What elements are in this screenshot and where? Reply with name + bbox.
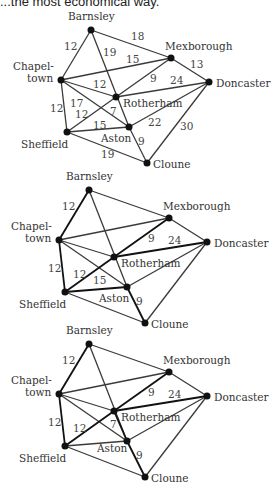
label-chapeltown-2: town xyxy=(25,386,52,398)
weight-label: 12 xyxy=(62,354,75,366)
weight-label: 9 xyxy=(136,295,143,307)
weight-label: 7 xyxy=(110,105,117,117)
weight-label: 9 xyxy=(148,232,155,244)
node-chapeltown xyxy=(56,391,63,398)
weight-label: 12 xyxy=(93,78,106,90)
label-aston: Aston xyxy=(98,292,130,304)
label-cloune: Cloune xyxy=(151,318,188,330)
weight-label: 15 xyxy=(126,53,139,65)
weight-label: 13 xyxy=(190,58,203,70)
weight-label: 24 xyxy=(170,74,184,86)
weight-label: 9 xyxy=(148,386,155,398)
edge-barnsley-aston xyxy=(89,190,127,287)
graph-spanning-tree-step-2: 12 9 24 12 12 7 9 Barnsley Mexborough Ch… xyxy=(11,324,269,484)
label-rotherham: Rotherham xyxy=(123,97,182,109)
weight-label: 19 xyxy=(101,148,114,160)
node-aston xyxy=(126,124,133,131)
node-cloune xyxy=(144,160,151,167)
node-doncaster xyxy=(206,79,213,86)
edge-chapeltown-rotherham xyxy=(61,80,116,97)
node-barnsley xyxy=(88,27,95,34)
label-chapeltown-1: Chapel- xyxy=(11,374,52,386)
label-aston: Aston xyxy=(100,132,132,144)
label-sheffield: Sheffield xyxy=(19,452,67,464)
label-mexborough: Mexborough xyxy=(165,40,233,52)
label-cloune: Cloune xyxy=(151,472,188,484)
edge-barnsley-chapeltown xyxy=(59,344,89,394)
node-chapeltown xyxy=(56,237,63,244)
node-barnsley xyxy=(86,187,93,194)
graph-spanning-tree-step-1: 12 9 24 12 12 15 9 Barnsley Mexborough C… xyxy=(11,170,269,330)
weight-label: 7 xyxy=(110,418,117,430)
weight-label: 9 xyxy=(136,449,143,461)
node-cloune xyxy=(142,474,149,481)
weight-label: 12 xyxy=(75,108,88,120)
node-rotherham xyxy=(111,408,118,415)
edge-chapeltown-rotherham xyxy=(59,394,114,411)
edge-doncaster-cloune xyxy=(145,396,207,477)
label-chapeltown-2: town xyxy=(27,72,54,84)
weight-label: 12 xyxy=(48,416,61,428)
network-diagrams: 12 18 19 15 13 12 9 24 12 17 12 7 15 22 … xyxy=(0,0,274,484)
node-doncaster xyxy=(204,239,211,246)
label-chapeltown-2: town xyxy=(25,232,52,244)
label-mexborough: Mexborough xyxy=(163,354,231,366)
node-sheffield xyxy=(62,443,69,450)
label-chapeltown-1: Chapel- xyxy=(11,220,52,232)
weight-label: 12 xyxy=(62,200,75,212)
label-rotherham: Rotherham xyxy=(121,411,180,423)
node-rotherham xyxy=(113,94,120,101)
weight-label: 12 xyxy=(48,262,61,274)
node-barnsley xyxy=(86,341,93,348)
node-sheffield xyxy=(62,289,69,296)
weight-label: 12 xyxy=(50,102,63,114)
label-barnsley: Barnsley xyxy=(66,170,113,182)
node-aston xyxy=(124,284,131,291)
edge-chapeltown-rotherham xyxy=(59,240,114,257)
node-cloune xyxy=(142,320,149,327)
weight-label: 15 xyxy=(93,119,106,131)
edge-barnsley-mexborough xyxy=(89,190,169,218)
label-doncaster: Doncaster xyxy=(216,77,271,89)
node-mexborough xyxy=(168,55,175,62)
label-doncaster: Doncaster xyxy=(214,391,269,403)
node-rotherham xyxy=(111,254,118,261)
label-barnsley: Barnsley xyxy=(66,324,113,336)
label-doncaster: Doncaster xyxy=(214,237,269,249)
weight-label: 19 xyxy=(103,46,116,58)
label-barnsley: Barnsley xyxy=(68,10,115,22)
node-sheffield xyxy=(64,129,71,136)
weight-label: 12 xyxy=(73,268,86,280)
edge-barnsley-chapeltown xyxy=(59,190,89,240)
label-mexborough: Mexborough xyxy=(163,200,231,212)
node-doncaster xyxy=(204,393,211,400)
weight-label: 22 xyxy=(148,116,161,128)
weight-label: 15 xyxy=(93,274,106,286)
edge-doncaster-cloune xyxy=(145,242,207,323)
weight-label: 30 xyxy=(180,120,193,132)
node-chapeltown xyxy=(58,77,65,84)
edge-barnsley-mexborough xyxy=(89,344,169,372)
label-sheffield: Sheffield xyxy=(19,298,67,310)
label-cloune: Cloune xyxy=(153,158,190,170)
graph-full-network: 12 18 19 15 13 12 9 24 12 17 12 7 15 22 … xyxy=(13,10,271,170)
weight-label: 9 xyxy=(138,135,145,147)
weight-label: 12 xyxy=(73,422,86,434)
edge-barnsley-chapeltown xyxy=(61,30,91,80)
weight-label: 12 xyxy=(64,40,77,52)
weight-label: 24 xyxy=(168,234,182,246)
weight-label: 9 xyxy=(150,72,157,84)
label-aston: Aston xyxy=(96,442,128,454)
weight-label: 24 xyxy=(168,388,182,400)
node-mexborough xyxy=(166,369,173,376)
label-rotherham: Rotherham xyxy=(121,257,180,269)
label-chapeltown-1: Chapel- xyxy=(13,60,54,72)
weight-label: 18 xyxy=(131,30,144,42)
label-sheffield: Sheffield xyxy=(21,138,69,150)
node-mexborough xyxy=(166,215,173,222)
